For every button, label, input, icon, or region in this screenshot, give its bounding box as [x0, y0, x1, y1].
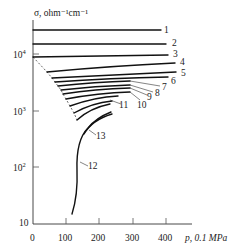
curve-label-10: 10 [137, 100, 147, 110]
leader-7 [130, 81, 160, 86]
curve-label-1: 1 [164, 25, 169, 35]
conductivity-pressure-chart: 104 103 102 10 0 100 200 300 400 σ, ohm⁻… [0, 0, 247, 250]
curve-label-6: 6 [171, 76, 176, 86]
curve-label-9: 9 [147, 92, 152, 102]
curve-label-12: 12 [88, 161, 98, 171]
curve-label-4: 4 [180, 57, 185, 67]
x-axis-title: p, 0.1 MPa [184, 233, 227, 243]
x-tick-label-300: 300 [125, 233, 140, 243]
x-tick-label-100: 100 [58, 233, 73, 243]
leader-8 [130, 85, 153, 92]
curve-3 [33, 55, 168, 57]
y-tick-label-10000: 104 [13, 48, 27, 60]
curve-label-3: 3 [173, 49, 178, 59]
leader-13 [89, 130, 96, 135]
curve-label-8: 8 [155, 88, 160, 98]
x-tick-label-200: 200 [91, 233, 106, 243]
leader-10 [130, 92, 140, 100]
x-tick-label-400: 400 [158, 233, 173, 243]
y-axis-title: σ, ohm⁻¹cm⁻¹ [34, 8, 88, 18]
curve-label-2: 2 [172, 38, 177, 48]
curve-label-7: 7 [162, 82, 167, 92]
leader-12 [80, 162, 88, 166]
curve-4 [47, 63, 175, 72]
y-tick-label-10: 10 [19, 218, 29, 228]
y-tick-label-1000: 103 [13, 105, 26, 117]
curve-label-11: 11 [119, 100, 128, 110]
x-tick-label-0: 0 [30, 233, 35, 243]
curve-fan-bottom [77, 104, 110, 120]
curve-8 [61, 85, 130, 90]
curve-label-13: 13 [96, 131, 106, 141]
y-tick-label-100: 102 [13, 161, 26, 173]
curve-label-5: 5 [181, 68, 186, 78]
